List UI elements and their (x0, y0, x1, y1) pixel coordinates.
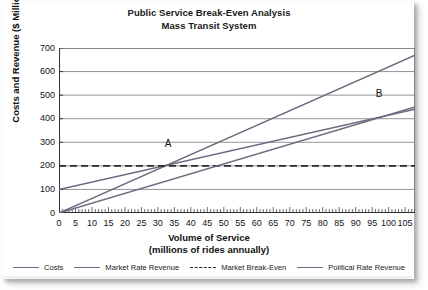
x-tick-label: 40 (186, 218, 196, 228)
x-tick-label: 5 (73, 218, 78, 228)
y-tick-label: 600 (27, 67, 55, 76)
x-tick-label: 105 (398, 218, 413, 228)
x-tick-label: 85 (334, 218, 344, 228)
legend-item: Market Rate Revenue (74, 263, 179, 272)
y-tick-label: 0 (27, 209, 55, 218)
series-line-costs (59, 109, 415, 189)
y-tick-label: 400 (27, 114, 55, 123)
legend-swatch-icon (190, 267, 216, 268)
x-tick-label: 45 (202, 218, 212, 228)
x-tick-label: 0 (56, 218, 61, 228)
series-line-political-rate-revenue (59, 107, 415, 213)
legend-swatch-icon (297, 267, 323, 268)
y-axis-tick-labels: 0100200300400500600700 (27, 48, 55, 213)
x-tick-label: 95 (367, 218, 377, 228)
x-tick-label: 20 (120, 218, 130, 228)
y-tick-label: 200 (27, 161, 55, 170)
legend-swatch-icon (74, 267, 100, 268)
annotation-point-a: A (165, 138, 172, 149)
x-tick-label: 80 (318, 218, 328, 228)
chart-subtitle: Mass Transit System (3, 20, 415, 33)
legend-label: Market Rate Revenue (105, 263, 179, 272)
legend-label: Political Rate Revenue (328, 263, 405, 272)
chart-card: Public Service Break-Even Analysis Mass … (3, 2, 415, 280)
plot-area: AB (59, 48, 415, 213)
x-axis-title-sub: (millions of rides annually) (3, 244, 415, 256)
x-tick-label: 25 (136, 218, 146, 228)
x-tick-label: 60 (252, 218, 262, 228)
legend-label: Market Break-Even (221, 263, 286, 272)
y-tick-label: 100 (27, 185, 55, 194)
screenshot-root: Public Service Break-Even Analysis Mass … (0, 0, 428, 290)
x-axis-title: Volume of Service (3, 232, 415, 244)
chart-title: Public Service Break-Even Analysis (3, 7, 415, 20)
x-tick-label: 10 (87, 218, 97, 228)
y-tick-label: 500 (27, 91, 55, 100)
x-tick-label: 70 (285, 218, 295, 228)
x-tick-label: 55 (235, 218, 245, 228)
x-tick-label: 100 (381, 218, 396, 228)
x-tick-label: 75 (301, 218, 311, 228)
chart-page-frame: Public Service Break-Even Analysis Mass … (2, 1, 414, 279)
chart-legend: CostsMarket Rate RevenueMarket Break-Eve… (3, 263, 415, 272)
x-tick-label: 30 (153, 218, 163, 228)
y-axis-title: Costs and Revenue ($ Millions) (10, 0, 21, 138)
x-tick-label: 50 (219, 218, 229, 228)
x-tick-label: 90 (351, 218, 361, 228)
legend-item: Political Rate Revenue (297, 263, 405, 272)
chart-title-block: Public Service Break-Even Analysis Mass … (3, 7, 415, 32)
x-axis-title-block: Volume of Service (millions of rides ann… (3, 232, 415, 256)
x-tick-label: 35 (169, 218, 179, 228)
x-axis-tick-labels: 0510152025303540455055606570758085909510… (59, 218, 415, 230)
x-tick-label: 15 (103, 218, 113, 228)
legend-item: Market Break-Even (190, 263, 286, 272)
legend-label: Costs (44, 263, 63, 272)
y-tick-label: 700 (27, 44, 55, 53)
legend-item: Costs (13, 263, 63, 272)
x-tick-label: 65 (268, 218, 278, 228)
plot-svg (59, 48, 415, 213)
legend-swatch-icon (13, 267, 39, 268)
annotation-point-b: B (376, 88, 383, 99)
y-tick-label: 300 (27, 138, 55, 147)
